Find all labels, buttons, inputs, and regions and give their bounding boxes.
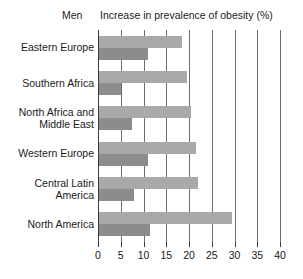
category-label-line: Southern Africa	[0, 77, 94, 90]
gridline	[189, 30, 190, 242]
x-tick	[280, 242, 281, 247]
bar-lower-5	[98, 224, 150, 236]
x-tick-label-3: 15	[160, 249, 172, 261]
x-tick	[212, 242, 213, 247]
x-tick-label-5: 25	[206, 249, 218, 261]
category-label-2: North Africa andMiddle East	[0, 106, 94, 131]
chart-title: Increase in prevalence of obesity (%)	[100, 8, 273, 22]
x-tick-label-7: 35	[251, 249, 263, 261]
x-tick	[98, 242, 99, 247]
gridline	[212, 30, 213, 242]
x-tick	[235, 242, 236, 247]
gridline	[257, 30, 258, 242]
bar-upper-0	[98, 36, 182, 48]
gridline	[235, 30, 236, 242]
category-label-line: Western Europe	[0, 147, 94, 160]
category-axis-labels: Eastern EuropeSouthern AfricaNorth Afric…	[0, 30, 94, 242]
x-tick	[166, 242, 167, 247]
category-label-line: Central Latin	[0, 177, 94, 190]
series-title: Men	[62, 8, 82, 22]
x-tick-label-4: 20	[183, 249, 195, 261]
x-tick-label-8: 40	[274, 249, 286, 261]
plot-area	[98, 30, 280, 242]
gridline	[166, 30, 167, 242]
bar-lower-2	[98, 118, 132, 130]
gridline	[144, 30, 145, 242]
bar-upper-2	[98, 106, 191, 118]
chart-header: Men Increase in prevalence of obesity (%…	[0, 8, 303, 26]
bar-lower-4	[98, 189, 134, 201]
x-tick-label-6: 30	[229, 249, 241, 261]
bar-lower-3	[98, 154, 148, 166]
category-label-line: North America	[0, 218, 94, 231]
x-tick-label-1: 5	[118, 249, 124, 261]
category-label-line: North Africa and	[0, 106, 94, 119]
x-tick-label-2: 10	[138, 249, 150, 261]
category-label-3: Western Europe	[0, 147, 94, 160]
category-label-line: America	[0, 189, 94, 202]
bar-lower-1	[98, 83, 121, 95]
category-label-0: Eastern Europe	[0, 41, 94, 54]
category-label-line: Middle East	[0, 118, 94, 131]
value-axis-line	[98, 30, 99, 242]
category-label-5: North America	[0, 218, 94, 231]
category-label-line: Eastern Europe	[0, 41, 94, 54]
x-tick-label-0: 0	[95, 249, 101, 261]
gridline	[121, 30, 122, 242]
x-tick	[257, 242, 258, 247]
obesity-prevalence-bar-chart: Men Increase in prevalence of obesity (%…	[0, 0, 303, 279]
category-label-4: Central LatinAmerica	[0, 177, 94, 202]
x-tick	[144, 242, 145, 247]
bar-upper-1	[98, 71, 187, 83]
x-tick	[121, 242, 122, 247]
bar-upper-5	[98, 212, 232, 224]
bar-lower-0	[98, 48, 148, 60]
gridline	[280, 30, 281, 242]
x-tick	[189, 242, 190, 247]
bar-upper-4	[98, 177, 198, 189]
bar-upper-3	[98, 142, 196, 154]
category-label-1: Southern Africa	[0, 77, 94, 90]
value-axis: 0510152025303540	[98, 242, 280, 272]
